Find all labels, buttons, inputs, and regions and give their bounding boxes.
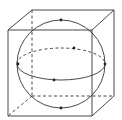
point-back: [73, 47, 76, 50]
point-top: [60, 19, 63, 22]
sphere-in-cube-diagram: [0, 0, 122, 120]
cube-front-face: [8, 30, 92, 116]
point-front: [53, 79, 56, 82]
cube-hidden-edge-depth: [8, 96, 32, 116]
point-right: [104, 63, 107, 66]
point-bottom: [60, 107, 63, 110]
point-left: [17, 63, 20, 66]
cube-right-back-edges: [92, 10, 114, 116]
